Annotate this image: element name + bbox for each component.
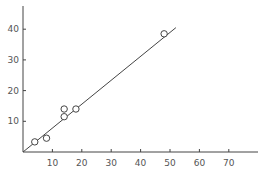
y-tick-label: 30: [8, 55, 20, 65]
x-tick-label: 30: [105, 158, 117, 168]
fit-line: [23, 28, 176, 152]
x-tick-label: 20: [76, 158, 88, 168]
tick-labels: 1020304050607010203040: [8, 24, 235, 168]
data-point: [73, 106, 79, 112]
x-tick-label: 50: [164, 158, 176, 168]
chart-canvas: 1020304050607010203040: [0, 0, 269, 174]
axes: [23, 6, 258, 152]
x-tick-label: 10: [47, 158, 59, 168]
y-tick-label: 40: [8, 24, 20, 34]
y-tick-label: 10: [8, 116, 20, 126]
data-point: [61, 113, 67, 119]
data-point: [161, 31, 167, 37]
x-tick-label: 40: [135, 158, 147, 168]
data-point: [32, 139, 38, 145]
data-point: [43, 135, 49, 141]
ticks: [23, 29, 229, 152]
regression-line: [23, 28, 176, 152]
y-tick-label: 20: [8, 86, 20, 96]
x-tick-label: 70: [223, 158, 235, 168]
scatter-chart: 1020304050607010203040: [0, 0, 269, 174]
data-point: [61, 106, 67, 112]
x-tick-label: 60: [194, 158, 206, 168]
